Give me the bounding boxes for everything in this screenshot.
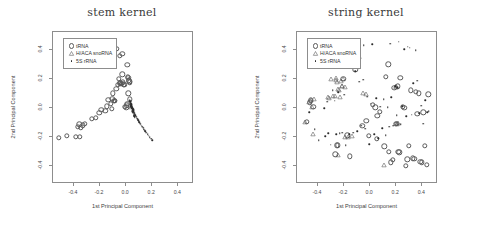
data-point-trna [77, 134, 82, 139]
data-point-5s-rrna [380, 106, 382, 108]
data-point-5s-rrna [385, 134, 387, 136]
legend-item-5s-rrna: 5S rRNA [67, 58, 112, 65]
x-tick-mark [369, 183, 370, 186]
x-tick-label: 0.4 [174, 189, 181, 195]
data-point-5s-rrna [314, 128, 316, 130]
data-point-trna [377, 109, 382, 114]
data-point-5s-rrna [405, 116, 407, 118]
panel-stem-kernel: stem kernel 2nd Principal Component 1st … [0, 0, 244, 240]
legend-string-kernel: tRNA H/ACA snoRNA 5S rRNA [307, 38, 361, 69]
data-point-5s-rrna [372, 44, 374, 46]
legend-label-5s-rrna: 5S rRNA [76, 58, 96, 65]
plot-area-stem-kernel: tRNA H/ACA snoRNA 5S rRNA [52, 31, 193, 183]
data-point-5s-rrna [337, 91, 339, 93]
y-tick-mark [293, 107, 296, 108]
data-point-5s-rrna [374, 133, 376, 135]
x-tick-label: 0.2 [392, 189, 399, 195]
x-tick-mark [151, 183, 152, 186]
x-axis-label-right: 1st Principal Component [296, 203, 437, 209]
data-point-5s-rrna [417, 80, 419, 82]
data-point-5s-rrna [402, 105, 404, 107]
data-point-h-aca-snorna [382, 163, 387, 168]
x-axis-label-left: 1st Principal Component [52, 203, 193, 209]
data-point-trna [124, 62, 129, 67]
data-point-5s-rrna [389, 126, 391, 128]
x-tick-mark [421, 183, 422, 186]
data-point-5s-rrna [387, 107, 389, 109]
data-point-5s-rrna [419, 112, 421, 114]
y-tick-mark [49, 78, 52, 79]
data-point-trna [363, 118, 368, 123]
data-point-5s-rrna [404, 48, 406, 50]
data-point-trna [382, 144, 387, 149]
data-point-h-aca-snorna [342, 84, 347, 89]
filled-dot-icon [311, 60, 320, 62]
legend-label-haca-snorna: H/ACA snoRNA [320, 50, 356, 57]
data-point-h-aca-snorna [302, 120, 307, 125]
y-tick-mark [293, 49, 296, 50]
x-tick-mark [177, 183, 178, 186]
data-point-trna [424, 162, 429, 167]
x-tick-label: 0.0 [366, 189, 373, 195]
y-tick-label: 0.0 [37, 103, 43, 110]
data-point-5s-rrna [324, 135, 326, 137]
legend-item-trna: tRNA [311, 43, 356, 50]
data-point-trna [406, 143, 411, 148]
data-point-h-aca-snorna [326, 96, 331, 101]
figure-pca-kernel-comparison: stem kernel 2nd Principal Component 1st … [0, 0, 488, 240]
x-tick-label: -0.4 [68, 189, 77, 195]
y-axis-label-left: 2nd Principal Component [10, 76, 16, 139]
data-point-5s-rrna [381, 128, 383, 130]
y-tick-label: -0.4 [281, 161, 287, 170]
data-point-h-aca-snorna [311, 96, 316, 101]
data-point-5s-rrna [334, 100, 336, 102]
data-point-h-aca-snorna [310, 131, 315, 136]
open-triangle-icon [67, 51, 76, 56]
y-axis-label-right: 2nd Principal Component [254, 76, 260, 139]
data-point-trna [56, 135, 61, 140]
data-point-5s-rrna [318, 140, 320, 142]
data-point-5s-rrna [391, 97, 393, 99]
x-tick-mark [73, 183, 74, 186]
data-point-5s-rrna [345, 145, 347, 147]
data-point-trna [397, 149, 402, 154]
data-point-5s-rrna [400, 124, 402, 126]
data-point-5s-rrna [383, 98, 385, 100]
data-point-5s-rrna [415, 50, 417, 52]
data-point-5s-rrna [428, 110, 430, 112]
legend-item-haca-snorna: H/ACA snoRNA [311, 50, 356, 57]
data-point-trna [126, 91, 131, 96]
data-point-5s-rrna [396, 115, 398, 117]
data-point-5s-rrna [411, 114, 413, 116]
data-point-5s-rrna [370, 103, 372, 105]
data-point-5s-rrna [366, 96, 368, 98]
data-point-h-aca-snorna [341, 76, 346, 81]
open-circle-icon [311, 43, 320, 48]
legend-stem-kernel: tRNA H/ACA snoRNA 5S rRNA [63, 38, 117, 69]
data-point-5s-rrna [309, 112, 311, 114]
data-point-trna [335, 143, 340, 148]
data-point-trna [386, 61, 391, 66]
y-tick-mark [293, 136, 296, 137]
data-point-5s-rrna [151, 140, 153, 142]
x-tick-label: -0.2 [339, 189, 348, 195]
x-tick-mark [395, 183, 396, 186]
data-point-trna [390, 157, 395, 162]
data-point-h-aca-snorna [337, 95, 342, 100]
data-point-5s-rrna [363, 79, 365, 81]
data-point-trna [421, 110, 426, 115]
data-point-trna [383, 74, 388, 79]
data-point-trna [64, 133, 69, 138]
data-point-trna [347, 154, 352, 159]
x-tick-label: 0.2 [148, 189, 155, 195]
data-point-trna [82, 121, 87, 126]
x-tick-label: 0.4 [418, 189, 425, 195]
legend-label-trna: tRNA [76, 43, 88, 50]
x-tick-mark [343, 183, 344, 186]
data-point-5s-rrna [357, 131, 359, 133]
data-point-5s-rrna [424, 100, 426, 102]
data-point-trna [412, 156, 417, 161]
data-point-5s-rrna [423, 123, 425, 125]
data-point-5s-rrna [353, 132, 355, 134]
data-point-5s-rrna [323, 107, 325, 109]
